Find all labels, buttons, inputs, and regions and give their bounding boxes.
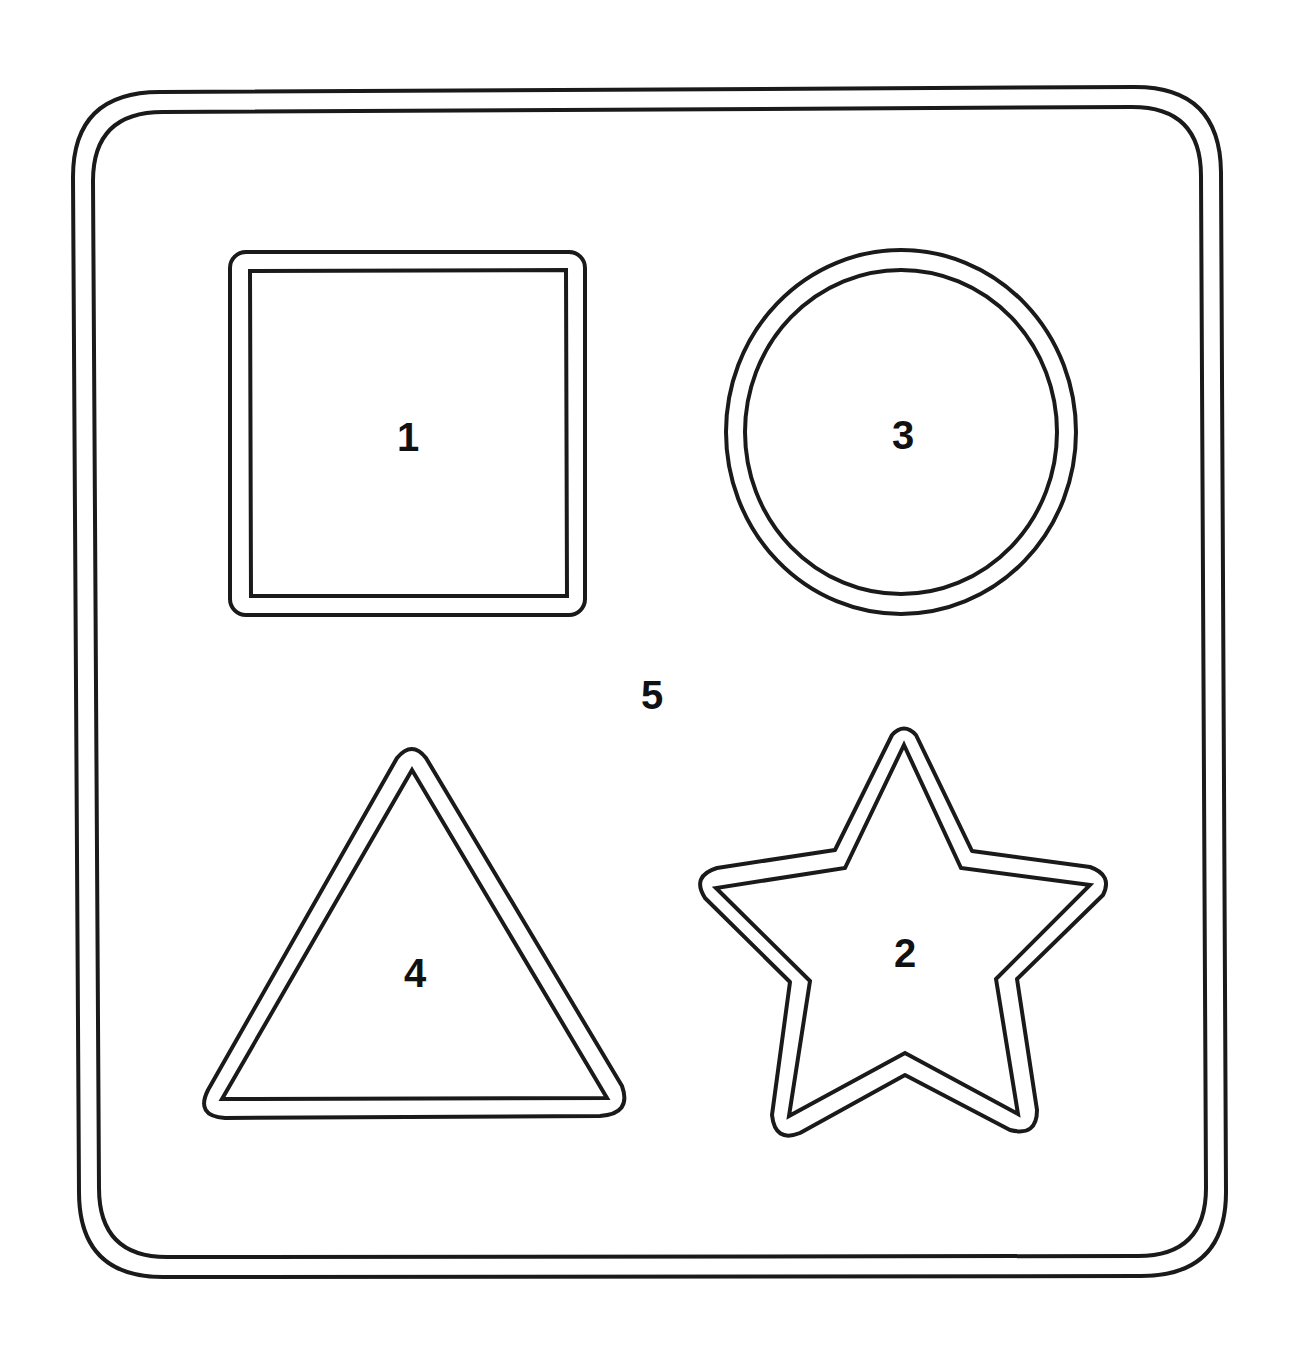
triangle-cutout[interactable] <box>204 749 624 1118</box>
square-label: 1 <box>397 415 419 459</box>
shape-sorter-board: 1 3 5 4 2 <box>0 0 1293 1356</box>
star-label: 2 <box>894 931 916 975</box>
circle-label: 3 <box>892 413 914 457</box>
triangle-label: 4 <box>404 951 427 995</box>
board-label: 5 <box>641 673 663 717</box>
